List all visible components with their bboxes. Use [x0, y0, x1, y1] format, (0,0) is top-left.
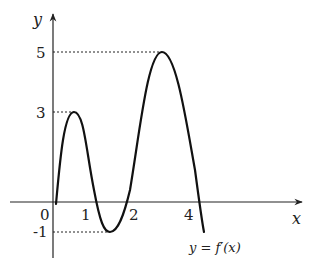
curve-f-prime [56, 52, 204, 232]
tick-x4: 4 [184, 206, 194, 224]
tick-x2: 2 [129, 206, 139, 224]
y-axis-label: y [32, 10, 43, 29]
tick-yneg1: -1 [33, 223, 48, 241]
tick-y3: 3 [36, 104, 46, 122]
chart: y x 5 3 0 1 2 4 -1 y = f′(x) [0, 0, 313, 268]
curve-label: y = f′(x) [188, 240, 241, 255]
tick-x1: 1 [81, 206, 91, 224]
tick-origin: 0 [40, 206, 50, 224]
tick-y5: 5 [36, 44, 46, 62]
x-axis-label: x [292, 209, 301, 228]
